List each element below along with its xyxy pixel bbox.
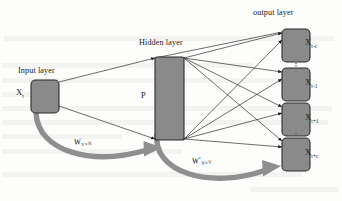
diagram-canvas: Input layer Hidden layer output layer Xt… — [0, 0, 342, 201]
weight-arrow-hidden-to-output — [157, 134, 281, 178]
output-node-label: Xt-c — [305, 38, 317, 49]
input-node-label: Xt — [16, 88, 24, 99]
input-node-box — [31, 80, 59, 113]
hidden-layer-box — [155, 57, 184, 140]
hidden-layer-label: Hidden layer — [139, 39, 183, 47]
output-node-subscript: t-c — [311, 43, 317, 49]
vertical-ellipsis-icon — [295, 63, 296, 67]
output-node-subscript: t+c — [311, 153, 318, 159]
output-node-label: Xt-1 — [305, 78, 318, 89]
output-node-subscript: t-1 — [311, 83, 317, 89]
input-node-subscript: t — [22, 93, 24, 99]
output-node-label: Xt+1 — [305, 113, 319, 124]
output-node-subscript: t+1 — [311, 118, 319, 124]
network-graphic — [0, 0, 342, 201]
input-layer-label: Input layer — [18, 67, 55, 75]
output-layer-label: output layer — [253, 9, 294, 17]
hidden-node-label: P — [141, 92, 146, 100]
output-node-label: Xt+c — [305, 148, 319, 159]
